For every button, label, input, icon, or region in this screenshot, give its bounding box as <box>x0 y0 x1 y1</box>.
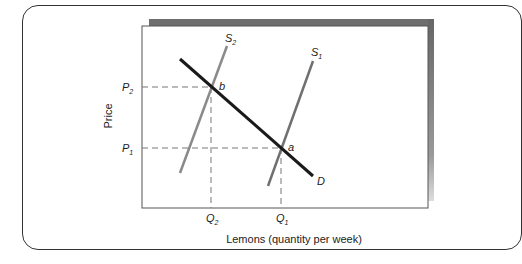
tick-label-q1: Q1 <box>276 212 289 226</box>
tick-label-p1-sub: 1 <box>129 149 133 156</box>
tick-label-q2-sub: 2 <box>214 219 219 226</box>
x-axis-label: Lemons (quantity per week) <box>226 233 362 245</box>
tick-label-p1: P1 <box>122 142 133 156</box>
point-label-b: b <box>219 80 225 92</box>
plot-frame <box>142 26 428 208</box>
tick-label-q2: Q2 <box>206 212 219 226</box>
frame-shadow-right <box>428 19 434 201</box>
frame-shadow-top <box>149 19 434 26</box>
label-d: D <box>317 175 325 187</box>
y-axis-label: Price <box>102 103 114 128</box>
label-s2-sub: 2 <box>231 39 236 46</box>
tick-label-p2: P2 <box>122 81 133 95</box>
label-s1-sub: 1 <box>318 53 322 60</box>
tick-label-q1-sub: 1 <box>285 219 289 226</box>
tick-label-p2-sub: 2 <box>128 88 133 95</box>
point-label-a: a <box>288 141 294 153</box>
